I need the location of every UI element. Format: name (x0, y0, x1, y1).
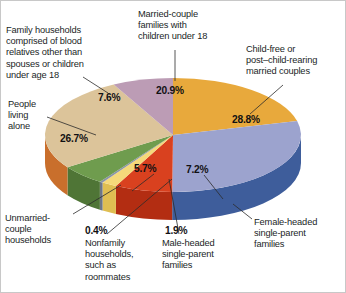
label-unmarried-couple: Unmarried- couple households (5, 213, 75, 247)
value-label-married-couple-children: 20.9% (156, 85, 184, 96)
value-label-unmarried-couple: 5.7% (134, 163, 156, 174)
wall-male-headed-single-parent-families (103, 183, 116, 214)
value-label-female-headed: 7.2% (186, 164, 208, 175)
value-label-nonfamily-households: 0.4% (85, 225, 107, 236)
label-child-free: Child-free or post–child-rearing married… (246, 44, 344, 78)
value-label-child-free: 28.8% (232, 114, 260, 125)
value-label-blood-relatives: 7.6% (98, 92, 120, 103)
label-married-couple-children: Married-couple families with children un… (138, 9, 242, 43)
label-blood-relatives: Family households comprised of blood rel… (6, 25, 128, 81)
label-nonfamily-households: Nonfamily households, such as roommates (85, 238, 159, 283)
value-label-male-headed: 1.9% (165, 225, 187, 236)
label-people-living-alone: People living alone (8, 99, 60, 133)
label-female-headed: Female-headed single-parent families (254, 217, 342, 251)
pie-chart-figure: Family households comprised of blood rel… (1, 1, 345, 292)
label-male-headed: Male-headed single-parent families (162, 238, 242, 272)
value-label-people-living-alone: 26.7% (60, 133, 88, 144)
